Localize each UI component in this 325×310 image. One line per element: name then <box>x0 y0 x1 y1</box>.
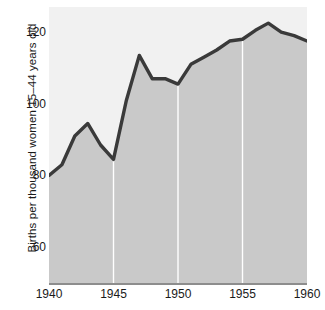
plot-svg <box>49 7 307 283</box>
x-tick-1960: 1960 <box>285 288 325 301</box>
x-tick-1945: 1945 <box>92 288 136 301</box>
x-tick-1955: 1955 <box>221 288 265 301</box>
x-tick-1950: 1950 <box>156 288 200 301</box>
x-axis-baseline <box>49 283 307 285</box>
plot-area <box>49 7 307 283</box>
x-tick-1940: 1940 <box>27 288 71 301</box>
